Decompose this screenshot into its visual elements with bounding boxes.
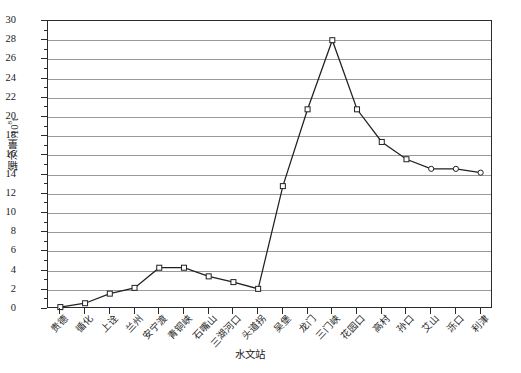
data-point-17: [478, 170, 483, 175]
y-tick-label: 10: [6, 207, 17, 217]
y-tick-label: 30: [6, 15, 17, 25]
x-tick-label-3: 兰州: [124, 313, 145, 334]
y-tick-label: 28: [6, 34, 17, 44]
y-tick-label: 12: [6, 188, 17, 198]
y-axis-ticks: 024681012141618202224262830: [0, 0, 47, 308]
x-tick-label-9: 吴堡: [272, 313, 293, 334]
x-tick-label-0: 贵德: [50, 313, 71, 334]
y-tick-label: 14: [6, 169, 17, 179]
series-markers: [58, 38, 483, 310]
y-tick-label: 4: [11, 265, 16, 275]
data-point-10: [305, 107, 310, 112]
data-point-12: [355, 107, 360, 112]
x-tick-label-1: 循化: [74, 313, 95, 334]
data-point-7: [231, 280, 236, 285]
data-point-15: [429, 166, 434, 171]
x-tick-label-4: 安宁渡: [142, 313, 170, 342]
data-point-2: [107, 291, 112, 296]
y-tick-label: 22: [6, 92, 17, 102]
x-tick-label-16: 泺口: [445, 313, 466, 334]
y-tick-label: 2: [11, 284, 16, 294]
y-tick-label: 6: [11, 245, 16, 255]
data-point-16: [453, 166, 458, 171]
series-sediment-discharge: [48, 21, 493, 309]
x-tick-label-15: 艾山: [421, 313, 442, 334]
y-tick-label: 26: [6, 53, 17, 63]
x-tick-label-2: 上诠: [99, 313, 120, 334]
data-point-11: [330, 38, 335, 43]
x-axis-title: 水文站: [180, 346, 320, 361]
x-tick-label-11: 三门峡: [315, 313, 343, 342]
data-point-6: [206, 274, 211, 279]
x-axis-title-text: 水文站: [235, 349, 265, 360]
data-point-13: [379, 139, 384, 144]
y-tick-label: 16: [6, 149, 17, 159]
plot-area: [47, 20, 492, 308]
x-tick-label-5: 青铜峡: [167, 313, 195, 342]
data-point-3: [132, 285, 137, 290]
y-tick-label: 8: [11, 226, 16, 236]
y-tick-label: 0: [11, 303, 16, 313]
y-tick-label: 24: [6, 73, 17, 83]
data-point-8: [256, 286, 261, 291]
series-line: [60, 40, 480, 307]
x-tick-label-14: 孙口: [396, 313, 417, 334]
x-tick-label-13: 高村: [371, 313, 392, 334]
x-tick-label-12: 花园口: [340, 313, 368, 342]
data-point-5: [181, 265, 186, 270]
y-tick-label: 20: [6, 111, 17, 121]
data-point-1: [83, 301, 88, 306]
x-tick-label-8: 头道拐: [241, 313, 269, 342]
data-point-14: [404, 157, 409, 162]
x-tick-label-17: 利津: [470, 313, 491, 334]
y-tick-label: 18: [6, 130, 17, 140]
data-point-4: [157, 265, 162, 270]
chart-container: 输沙量/108t 024681012141618202224262830 贵德循…: [0, 0, 521, 373]
data-point-9: [280, 184, 285, 189]
